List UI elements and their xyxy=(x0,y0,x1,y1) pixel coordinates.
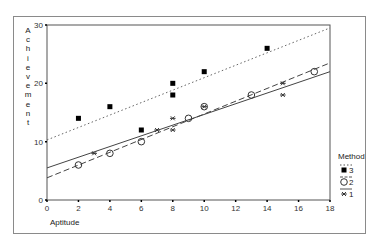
x-tick-label: 8 xyxy=(171,204,176,213)
y-axis-label-letter: m xyxy=(25,90,32,99)
x-tick-label: 12 xyxy=(231,204,240,213)
data-point-method-3 xyxy=(76,116,81,121)
fit-line-method-3 xyxy=(47,28,330,140)
data-point-method-3 xyxy=(139,128,144,133)
data-point-method-3 xyxy=(170,81,175,86)
fit-line-method-1 xyxy=(47,72,330,168)
data-point-method-1 xyxy=(280,93,286,97)
y-tick-label: 0 xyxy=(39,196,44,205)
data-point-method-1 xyxy=(170,116,176,120)
y-axis-label-letter: e xyxy=(26,63,31,72)
x-axis-label: Aptitude xyxy=(50,218,80,227)
fit-lines xyxy=(47,28,330,178)
data-point-method-3 xyxy=(202,69,207,74)
x-tick-label: 18 xyxy=(326,204,335,213)
y-axis-label-letter: n xyxy=(26,109,30,118)
legend-label-method-3: 3 xyxy=(349,166,354,175)
legend-label-method-1: 1 xyxy=(349,190,354,199)
x-tick-label: 10 xyxy=(200,204,209,213)
legend-marker-method-2 xyxy=(341,179,348,186)
data-points xyxy=(75,46,317,168)
y-axis-label-letter: e xyxy=(26,100,31,109)
x-tick-label: 2 xyxy=(76,204,81,213)
legend-title: Method xyxy=(338,152,365,161)
data-point-method-2 xyxy=(185,115,192,122)
legend-marker-method-3 xyxy=(342,168,347,173)
legend-label-method-2: 2 xyxy=(349,178,354,187)
y-tick-label: 20 xyxy=(34,79,43,88)
x-tick-label: 4 xyxy=(108,204,113,213)
y-axis-label-letter: h xyxy=(26,44,30,53)
data-point-method-3 xyxy=(170,93,175,98)
y-axis-label-letter: A xyxy=(25,26,31,35)
data-point-method-3 xyxy=(107,104,112,109)
data-point-method-1 xyxy=(201,105,207,109)
x-tick-label: 14 xyxy=(263,204,272,213)
scatter-chart: Achievement 0246810121416180102030 Aptit… xyxy=(0,0,381,243)
data-point-method-3 xyxy=(265,46,270,51)
plot-area xyxy=(47,25,330,200)
y-axis-label-letter: i xyxy=(27,54,29,63)
y-tick-label: 10 xyxy=(34,138,43,147)
y-tick-label: 30 xyxy=(34,21,43,30)
y-axis-label: Achievement xyxy=(25,26,32,127)
legend: Method321 xyxy=(338,152,365,199)
fit-line-method-2 xyxy=(47,63,330,178)
data-point-method-1 xyxy=(170,128,176,132)
x-tick-label: 6 xyxy=(139,204,144,213)
data-point-method-2 xyxy=(75,162,82,169)
y-axis-label-letter: c xyxy=(26,35,30,44)
legend-marker-method-1 xyxy=(341,192,347,196)
y-axis-label-letter: t xyxy=(27,118,30,127)
data-point-method-1 xyxy=(154,128,160,132)
x-tick-label: 0 xyxy=(45,204,50,213)
y-axis-label-letter: v xyxy=(26,72,30,81)
y-axis-label-letter: e xyxy=(26,81,31,90)
x-tick-label: 16 xyxy=(294,204,303,213)
